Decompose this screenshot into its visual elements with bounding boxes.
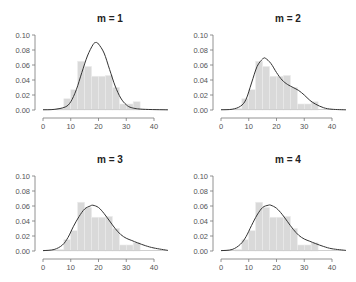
chart-title: m = 4 <box>275 154 301 165</box>
x-tick-label: 0 <box>219 122 223 131</box>
chart-panel-4: 0.000.020.040.060.080.10010203040m = 4 <box>193 154 345 272</box>
histogram-bar <box>249 231 256 251</box>
histogram-bar <box>283 76 290 111</box>
y-tick-label: 0.04 <box>193 217 208 226</box>
x-tick-label: 10 <box>67 122 75 131</box>
histogram-bars <box>235 61 318 110</box>
chart-title: m = 2 <box>275 13 301 24</box>
histogram-bar <box>283 217 290 252</box>
histogram-bar <box>277 217 284 251</box>
x-tick-label: 40 <box>150 263 158 272</box>
histogram-bar <box>249 90 256 110</box>
y-tick-label: 0.08 <box>15 187 30 196</box>
histogram-bars <box>57 202 140 251</box>
y-tick-label: 0.00 <box>15 247 30 256</box>
histogram-bar <box>92 217 99 251</box>
y-tick-label: 0.02 <box>193 91 208 100</box>
x-tick-label: 30 <box>122 263 130 272</box>
histogram-bar <box>112 88 119 111</box>
histogram-bar <box>290 88 297 111</box>
histogram-bar <box>263 208 270 252</box>
y-axis: 0.000.020.040.060.080.10 <box>193 172 213 256</box>
x-tick-label: 0 <box>219 263 223 272</box>
x-tick-label: 0 <box>41 122 45 131</box>
y-axis: 0.000.020.040.060.080.10 <box>15 172 35 256</box>
x-tick-label: 10 <box>245 263 253 272</box>
x-tick-label: 20 <box>272 263 280 272</box>
x-tick-label: 10 <box>245 122 253 131</box>
panels-container: 0.000.020.040.060.080.10010203040m = 10.… <box>15 13 345 272</box>
chart-title: m = 1 <box>97 13 123 24</box>
x-tick-label: 20 <box>272 122 280 131</box>
histogram-bars <box>57 61 140 110</box>
x-tick-label: 40 <box>328 263 336 272</box>
chart-panel-2: 0.000.020.040.060.080.10010203040m = 2 <box>193 13 345 131</box>
histogram-bar <box>270 76 277 110</box>
x-tick-label: 20 <box>94 122 102 131</box>
histogram-bar <box>311 102 318 110</box>
y-tick-label: 0.04 <box>15 76 30 85</box>
y-tick-label: 0.10 <box>193 172 208 181</box>
histogram-bar <box>99 76 106 110</box>
y-tick-label: 0.08 <box>15 46 30 55</box>
y-tick-label: 0.00 <box>15 106 30 115</box>
histogram-bar <box>277 76 284 110</box>
y-tick-label: 0.06 <box>15 61 30 70</box>
histogram-bar <box>263 67 270 111</box>
x-tick-label: 30 <box>122 122 130 131</box>
histogram-bar <box>92 76 99 110</box>
y-tick-label: 0.06 <box>193 202 208 211</box>
y-tick-label: 0.02 <box>15 91 30 100</box>
histogram-bar <box>105 217 112 252</box>
histogram-bar <box>256 202 263 251</box>
x-tick-label: 40 <box>150 122 158 131</box>
x-axis: 010203040 <box>41 259 158 272</box>
y-tick-label: 0.10 <box>193 31 208 40</box>
y-tick-label: 0.06 <box>193 61 208 70</box>
y-tick-label: 0.08 <box>193 46 208 55</box>
y-axis: 0.000.020.040.060.080.10 <box>15 31 35 115</box>
y-axis: 0.000.020.040.060.080.10 <box>193 31 213 115</box>
histogram-bar <box>85 67 92 111</box>
chart-panel-1: 0.000.020.040.060.080.10010203040m = 1 <box>15 13 167 131</box>
x-tick-label: 20 <box>94 263 102 272</box>
x-tick-label: 10 <box>67 263 75 272</box>
x-axis: 010203040 <box>41 118 158 131</box>
y-tick-label: 0.02 <box>193 232 208 241</box>
histogram-bar <box>64 99 71 110</box>
figure: 0.000.020.040.060.080.10010203040m = 10.… <box>0 0 356 282</box>
y-tick-label: 0.02 <box>15 232 30 241</box>
chart-panel-3: 0.000.020.040.060.080.10010203040m = 3 <box>15 154 167 272</box>
y-tick-label: 0.08 <box>193 187 208 196</box>
x-tick-label: 30 <box>300 263 308 272</box>
histogram-bar <box>105 76 112 111</box>
chart-title: m = 3 <box>97 154 123 165</box>
histogram-bar <box>71 231 78 251</box>
y-tick-label: 0.04 <box>15 217 30 226</box>
x-axis: 010203040 <box>219 259 336 272</box>
x-tick-label: 30 <box>300 122 308 131</box>
x-axis: 010203040 <box>219 118 336 131</box>
histogram-bar <box>99 217 106 251</box>
histogram-bar <box>133 243 140 251</box>
histogram-bar <box>270 217 277 251</box>
y-tick-label: 0.00 <box>193 106 208 115</box>
y-tick-label: 0.04 <box>193 76 208 85</box>
y-tick-label: 0.00 <box>193 247 208 256</box>
histogram-bars <box>235 202 318 251</box>
y-tick-label: 0.06 <box>15 202 30 211</box>
y-tick-label: 0.10 <box>15 31 30 40</box>
x-tick-label: 0 <box>41 263 45 272</box>
x-tick-label: 40 <box>328 122 336 131</box>
y-tick-label: 0.10 <box>15 172 30 181</box>
histogram-bar <box>85 208 92 252</box>
histogram-bar <box>290 229 297 252</box>
